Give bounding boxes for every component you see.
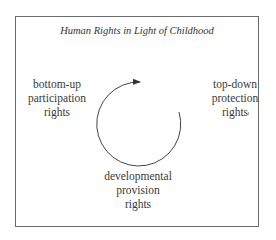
- diagram-frame: Human Rights in Light of Childhood botto…: [15, 16, 259, 227]
- stray-mark: [248, 112, 249, 115]
- circular-arrow-icon: [16, 17, 260, 228]
